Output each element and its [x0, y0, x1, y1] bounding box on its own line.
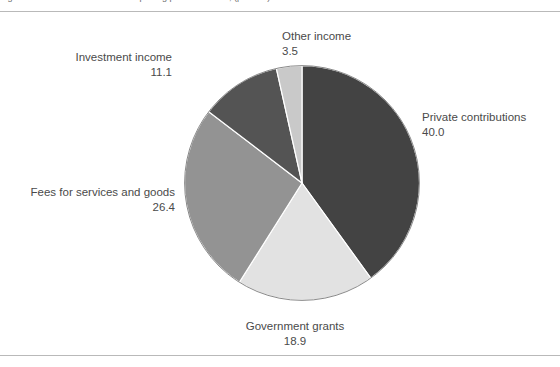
- figure-title-clipped: Figure 1. Sources of revenue for reporti…: [0, 0, 560, 3]
- bottom-divider: [0, 355, 560, 356]
- label-other-income-value: 3.5: [282, 44, 351, 59]
- figure-container: Figure 1. Sources of revenue for reporti…: [0, 0, 560, 367]
- label-government-grants: Government grants 18.9: [222, 319, 368, 349]
- pie-svg: [184, 65, 420, 301]
- label-investment-income-value: 11.1: [75, 65, 172, 80]
- label-fees-for-services: Fees for services and goods 26.4: [31, 185, 175, 215]
- label-fees-for-services-name: Fees for services and goods: [31, 186, 175, 198]
- label-other-income-name: Other income: [282, 30, 351, 42]
- label-government-grants-name: Government grants: [246, 320, 344, 332]
- label-investment-income: Investment income 11.1: [75, 50, 172, 80]
- label-fees-for-services-value: 26.4: [31, 200, 175, 215]
- label-private-contributions-value: 40.0: [422, 125, 526, 140]
- label-private-contributions: Private contributions 40.0: [422, 110, 526, 140]
- label-other-income: Other income 3.5: [282, 29, 351, 59]
- plot-area: Other income 3.5 Private contributions 4…: [0, 12, 560, 355]
- label-private-contributions-name: Private contributions: [422, 111, 526, 123]
- label-government-grants-value: 18.9: [222, 334, 368, 349]
- label-investment-income-name: Investment income: [75, 51, 172, 63]
- pie-chart: [184, 65, 420, 301]
